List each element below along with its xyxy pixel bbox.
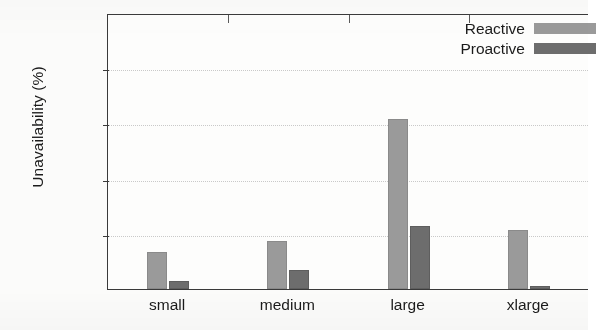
y-axis-title: Unavailability (%): [29, 17, 47, 237]
bar-xlarge-proactive: [530, 286, 550, 289]
bar-small-reactive: [147, 252, 167, 289]
legend-color-swatch: [534, 23, 596, 34]
x-axis-tick-label-small: small: [149, 296, 185, 314]
bar-medium-reactive: [267, 241, 287, 289]
x-axis-tick-label-large: large: [390, 296, 424, 314]
bar-large-proactive: [410, 226, 430, 289]
legend-color-swatch: [534, 43, 596, 54]
y-axis-tick-mark: [103, 70, 109, 71]
legend-item-proactive[interactable]: Proactive: [408, 39, 588, 58]
y-axis-tick-mark: [103, 236, 109, 237]
bar-large-reactive: [388, 119, 408, 289]
x-axis-tick-label-medium: medium: [260, 296, 315, 314]
y-axis-tick-mark: [103, 181, 109, 182]
gridline: [108, 125, 588, 126]
x-axis-tick-mark: [228, 15, 229, 23]
bar-medium-proactive: [289, 270, 309, 289]
gridline: [108, 181, 588, 182]
x-axis-tick-mark: [349, 15, 350, 23]
legend-label: Reactive: [465, 20, 525, 38]
bar-xlarge-reactive: [508, 230, 528, 289]
legend-item-reactive[interactable]: Reactive: [408, 19, 588, 38]
bar-small-proactive: [169, 281, 189, 289]
legend-label: Proactive: [460, 40, 525, 58]
chart-legend: ReactiveProactive: [408, 14, 588, 59]
gridline: [108, 70, 588, 71]
y-axis-tick-mark: [103, 125, 109, 126]
x-axis-tick-label-xlarge: xlarge: [507, 296, 549, 314]
